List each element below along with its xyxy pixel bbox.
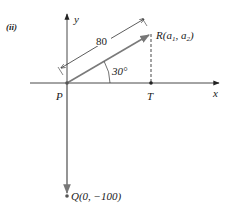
point-p-label: P	[55, 90, 63, 102]
point-r-label: R(a1, a2)	[155, 29, 194, 43]
point-p-dot	[65, 81, 69, 85]
point-t-dot	[149, 81, 153, 85]
point-q-dot	[65, 194, 69, 198]
angle-label: 30°	[111, 65, 128, 77]
dimension-label: 80	[96, 35, 108, 47]
dim-extension-p	[58, 67, 63, 75]
x-axis-label: x	[212, 87, 218, 99]
point-q-label: Q(0, −100)	[71, 190, 122, 203]
y-axis-label: y	[73, 13, 79, 25]
angle-arc	[104, 62, 110, 84]
point-t-label: T	[147, 90, 154, 102]
vector-diagram: (ii) x y Q(0, −100) 80 30° P T R(a1, a2)	[0, 0, 233, 210]
dim-extension-r	[142, 18, 147, 26]
dimension-line-right	[110, 19, 144, 39]
part-label: (ii)	[6, 22, 17, 32]
